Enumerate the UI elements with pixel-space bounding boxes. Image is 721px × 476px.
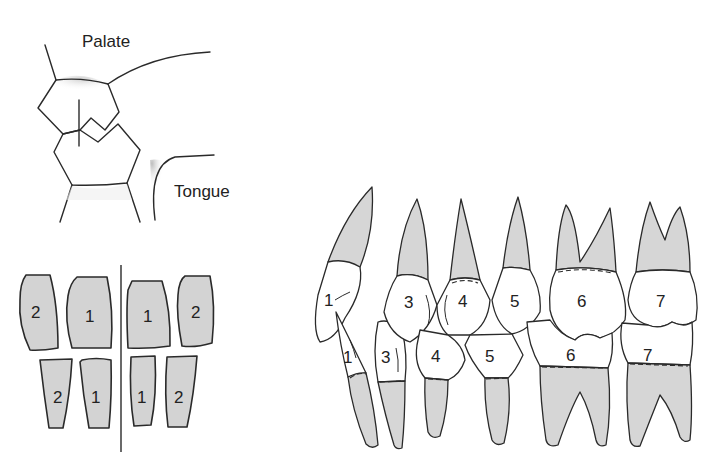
lower-tooth-3-root: [378, 381, 405, 449]
upper-tooth-label: 7: [656, 292, 665, 311]
upper-tooth-7-root: [636, 202, 690, 272]
upper-incisor-label: 1: [85, 307, 94, 326]
upper-incisor-label: 2: [31, 303, 40, 322]
upper-tooth-3-root: [397, 199, 428, 280]
lower-tooth-5-root: [485, 378, 509, 444]
upper-tooth-label: 5: [510, 292, 519, 311]
lower-incisor-label: 2: [174, 388, 183, 407]
gingiva-shading: [66, 184, 132, 200]
incisor-grid: 2 1 1 2 2 1 1 2: [20, 265, 214, 452]
lower-tooth-6-root: [540, 366, 610, 446]
upper-incisor-label: 1: [143, 307, 152, 326]
lower-tooth-label: 6: [566, 346, 575, 365]
cross-section: Palate Tongue: [38, 32, 230, 222]
lower-tooth-4-root: [425, 378, 448, 437]
upper-tooth-6-root: [556, 205, 616, 272]
lower-incisor-label: 2: [53, 388, 62, 407]
palate-left-line: [45, 45, 56, 80]
upper-tooth-5-root: [503, 197, 530, 270]
upper-tooth-1-root: [328, 187, 373, 267]
lower-molar-outline: [54, 124, 140, 185]
lower-tooth-label: 4: [431, 347, 440, 366]
palate-shading: [56, 76, 108, 92]
lower-tooth-label: 7: [643, 346, 652, 365]
upper-incisor-label: 2: [191, 303, 200, 322]
lower-incisor-label: 1: [91, 388, 100, 407]
upper-tooth-label: 6: [577, 292, 586, 311]
lower-incisor-label: 1: [137, 388, 146, 407]
lower-tooth-7-crown: [621, 322, 693, 365]
palate-curve: [108, 52, 210, 84]
lower-root-right: [127, 183, 140, 222]
lower-tooth-label: 3: [381, 348, 390, 367]
lower-tooth-label: 1: [343, 348, 352, 367]
dental-diagram: Palate Tongue 2 1 1 2 2 1 1 2: [0, 0, 721, 476]
lower-tooth-1-crown: [336, 312, 366, 377]
lower-tooth-4-crown: [416, 330, 465, 380]
upper-tooth-label: 4: [458, 292, 467, 311]
upper-tooth-label: 1: [324, 291, 333, 310]
lower-tooth-7-root: [627, 363, 692, 446]
palate-label: Palate: [82, 32, 130, 51]
upper-tooth-6-crown: [550, 268, 626, 340]
lateral-dentition: 1 3 4 5 6 7 1 3 4 5 6 7: [315, 187, 697, 449]
tongue-label: Tongue: [174, 182, 230, 201]
upper-tooth-label: 3: [404, 293, 413, 312]
lower-tooth-1-root: [348, 373, 378, 447]
upper-tooth-4-root: [450, 199, 480, 280]
lower-tooth-label: 5: [485, 347, 494, 366]
